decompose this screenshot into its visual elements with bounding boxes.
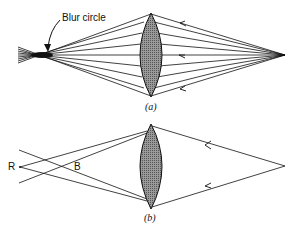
figure-b-arrowheads xyxy=(205,141,211,188)
blur-circle xyxy=(31,52,53,58)
caption-a: (a) xyxy=(145,101,157,112)
diagram-canvas xyxy=(0,0,296,234)
lens-b xyxy=(140,124,162,209)
blur-circle-pointer-arrow xyxy=(48,20,60,47)
blur-circle-label: Blur circle xyxy=(62,12,106,23)
point-r-dot xyxy=(19,166,21,168)
point-b-label: B xyxy=(74,161,81,172)
lens-a xyxy=(140,13,162,97)
caption-b: (b) xyxy=(144,212,156,223)
point-r-label: R xyxy=(8,161,15,172)
